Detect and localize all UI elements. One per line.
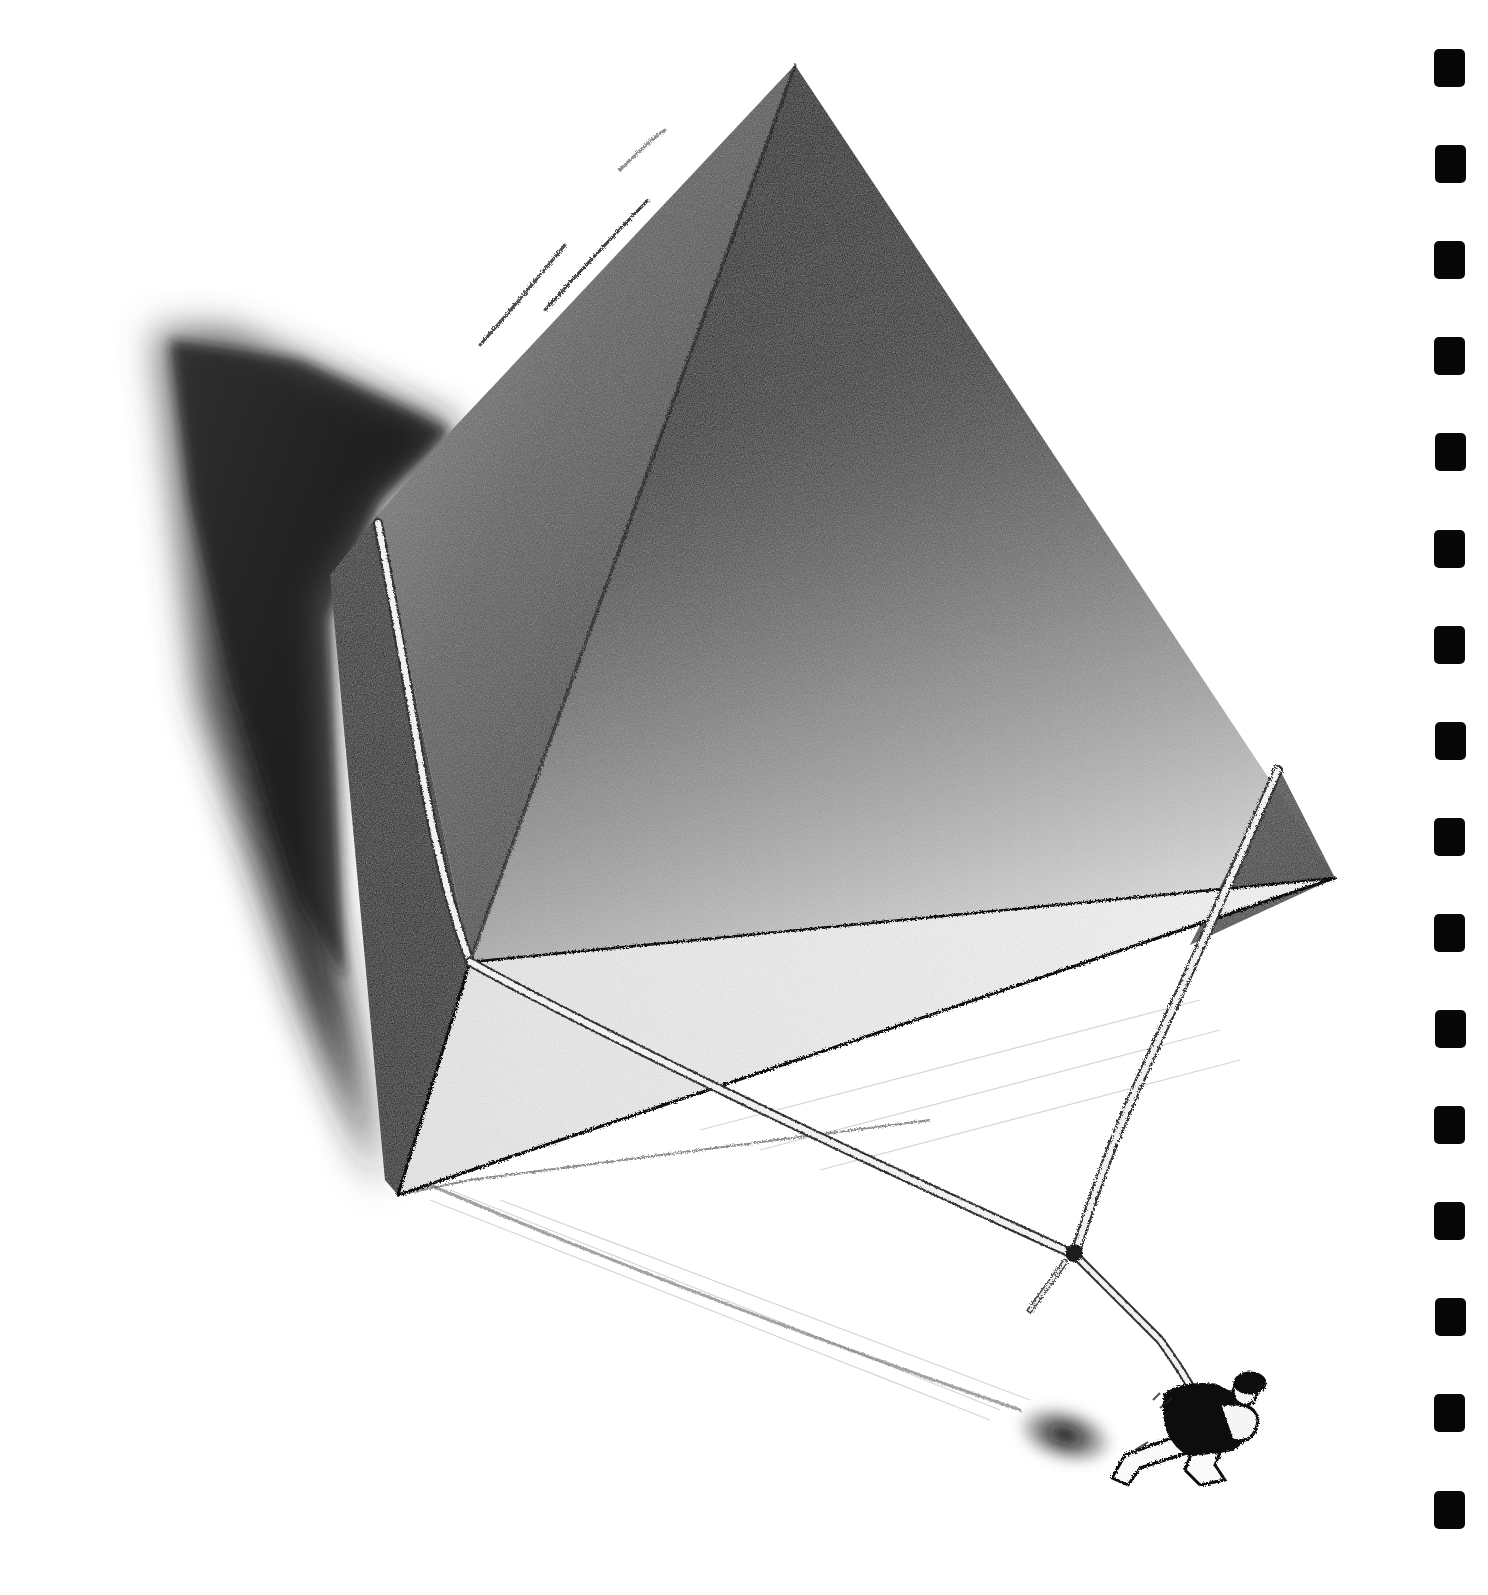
film-perforation — [1435, 1010, 1466, 1048]
film-perforation — [1434, 337, 1465, 375]
figure-hat — [1235, 1373, 1265, 1393]
film-perforation — [1434, 914, 1465, 952]
film-perforation — [1435, 145, 1466, 183]
film-perforation — [1434, 1106, 1465, 1144]
film-perforation — [1434, 49, 1465, 87]
film-perforation — [1434, 1491, 1465, 1529]
film-perforation — [1434, 818, 1465, 856]
film-perforation — [1434, 1394, 1465, 1432]
film-perforation — [1435, 722, 1466, 760]
charcoal-illustration — [0, 0, 1488, 1595]
film-perforation — [1434, 530, 1465, 568]
film-perforation — [1434, 626, 1465, 664]
film-perforation — [1434, 241, 1465, 279]
film-perforation — [1435, 1298, 1466, 1336]
rope-knot — [1065, 1244, 1083, 1262]
film-perforation — [1435, 433, 1466, 471]
film-perforation — [1434, 1202, 1465, 1240]
